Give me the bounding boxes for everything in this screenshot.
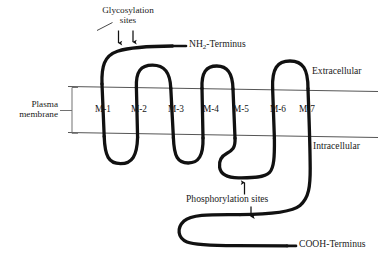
c-terminus-label: COOH-Terminus	[299, 239, 365, 250]
n-terminus-label: NH2-Terminus	[189, 39, 246, 50]
helix-label-m-5: M-5	[233, 104, 249, 114]
helix-label-m-3: M-3	[168, 104, 184, 114]
loop-m6-m7	[273, 61, 308, 89]
helix-label-m-7: M-7	[299, 104, 315, 114]
loop-m2-m3	[136, 65, 170, 88]
plasma-membrane-bracket	[60, 88, 78, 134]
plasma-membrane-label-line2: membrane	[0, 109, 58, 119]
glycosylation-label-line2: sites	[102, 15, 154, 25]
phosphorylation-label: Phosphorylation sites	[186, 194, 268, 205]
loop-m5-m6	[219, 138, 274, 178]
protein-chain	[102, 46, 310, 246]
glycosylation-label: Glycosylation sites	[102, 5, 154, 26]
topology-diagram: Glycosylation sites NH2-Terminus Extrace…	[0, 0, 381, 267]
plasma-membrane-label-line1: Plasma	[0, 99, 58, 109]
intracellular-membrane-line	[68, 133, 378, 138]
glycosylation-label-line1: Glycosylation	[102, 5, 154, 15]
intracellular-label: Intracellular	[313, 141, 360, 152]
extracellular-label: Extracellular	[312, 66, 362, 77]
helix-label-m-6: M-6	[270, 104, 286, 114]
helix-label-m-4: M-4	[203, 104, 219, 114]
loop-m1-m2	[104, 137, 137, 164]
n-terminus-label-suffix: -Terminus	[206, 38, 245, 49]
helix-label-m-2: M-2	[131, 104, 147, 114]
n-terminus-subscript: 2	[203, 43, 207, 51]
loop-m3-m4	[173, 138, 203, 163]
c-terminal-tail	[179, 215, 287, 246]
loop-m4-m5	[202, 66, 233, 89]
extracellular-membrane-line	[68, 87, 378, 92]
n-terminus-label-text: NH	[189, 38, 203, 49]
plasma-membrane-label: Plasma membrane	[0, 99, 58, 120]
helix-label-m-1: M-1	[95, 104, 111, 114]
membrane-lines	[68, 87, 378, 138]
